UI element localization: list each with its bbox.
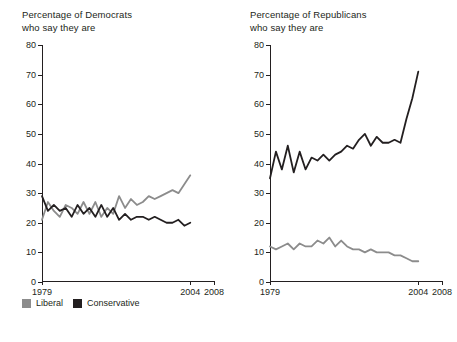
series-line-conservative (42, 196, 190, 226)
x-tick-mark (214, 281, 215, 285)
legend-item-conservative: Conservative (73, 298, 140, 308)
y-tick-label: 20 (10, 219, 36, 228)
chart-page: Percentage of Democrats who say they are… (0, 0, 457, 342)
y-tick-label: 30 (238, 189, 264, 198)
y-tick-label: 10 (10, 248, 36, 257)
legend-swatch-liberal (22, 299, 31, 308)
plot-area-republicans: 01020304050607080 197920042008 (270, 45, 442, 282)
y-tick-label: 0 (10, 278, 36, 287)
x-tick-label: 2004 (408, 288, 428, 297)
y-tick-label: 80 (238, 41, 264, 50)
y-tick-label: 20 (238, 219, 264, 228)
y-tick-label: 40 (238, 160, 264, 169)
chart-legend: Liberal Conservative (22, 298, 140, 308)
y-tick-label: 10 (238, 248, 264, 257)
series-lines-democrats (42, 45, 214, 282)
panel-title-line1: Percentage of Democrats (22, 9, 132, 20)
chart-panel-republicans: Percentage of Republicans who say they a… (228, 0, 456, 342)
x-tick-label: 2008 (204, 288, 224, 297)
y-tick-label: 50 (238, 130, 264, 139)
y-tick-label: 70 (10, 71, 36, 80)
legend-item-liberal: Liberal (22, 298, 63, 308)
y-tick-label: 50 (10, 130, 36, 139)
panel-title-democrats: Percentage of Democrats who say they are (22, 8, 132, 34)
panel-title-republicans: Percentage of Republicans who say they a… (250, 8, 367, 34)
y-tick-label: 30 (10, 189, 36, 198)
y-tick-label: 60 (10, 100, 36, 109)
x-tick-label: 2004 (180, 288, 200, 297)
plot-area-democrats: 01020304050607080 197920042008 (42, 45, 214, 282)
x-tick-label: 1979 (260, 288, 280, 297)
y-tick-label: 70 (238, 71, 264, 80)
panel-title-line1: Percentage of Republicans (250, 9, 367, 20)
legend-label-liberal: Liberal (36, 298, 63, 308)
y-tick-label: 0 (238, 278, 264, 287)
y-tick-label: 40 (10, 160, 36, 169)
panel-title-line2: who say they are (22, 21, 132, 34)
series-lines-republicans (270, 45, 442, 282)
series-line-conservative (270, 72, 418, 179)
chart-panel-democrats: Percentage of Democrats who say they are… (0, 0, 228, 342)
series-line-liberal (270, 238, 418, 262)
legend-label-conservative: Conservative (87, 298, 140, 308)
x-tick-mark (442, 281, 443, 285)
legend-swatch-conservative (73, 299, 82, 308)
y-tick-label: 80 (10, 41, 36, 50)
x-tick-label: 2008 (432, 288, 452, 297)
panel-title-line2: who say they are (250, 21, 367, 34)
x-tick-label: 1979 (32, 288, 52, 297)
y-tick-label: 60 (238, 100, 264, 109)
